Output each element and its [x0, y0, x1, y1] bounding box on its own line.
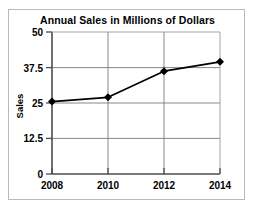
x-tick-label-2010: 2010 — [97, 180, 120, 191]
y-tick-label-0: 0 — [37, 169, 43, 180]
x-tick-label-2014: 2014 — [209, 180, 232, 191]
x-tick-label-2012: 2012 — [153, 180, 176, 191]
chart-plot-area: 50 37.5 25 12.5 0 2008 2010 2012 2014 Sa… — [9, 10, 246, 201]
y-axis-title: Sales — [14, 94, 25, 119]
y-tick-label-37-5: 37.5 — [24, 63, 44, 74]
y-tick-label-50: 50 — [32, 27, 44, 38]
x-tick-label-2008: 2008 — [41, 180, 64, 191]
y-tick-label-12-5: 12.5 — [24, 133, 44, 144]
chart-figure: Annual Sales in Millions of Dollars — [8, 9, 245, 200]
y-tick-label-25: 25 — [32, 98, 44, 109]
